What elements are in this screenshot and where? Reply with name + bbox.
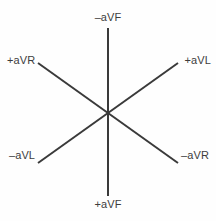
label-neg-avf: –aVF [0, 11, 216, 24]
label-neg-avl: –aVL [9, 149, 35, 162]
label-pos-avl: +aVL [185, 54, 211, 67]
label-neg-avr: –aVR [181, 149, 209, 162]
label-pos-avf: +aVF [0, 198, 216, 211]
hexaxial-reference-diagram: –aVF +aVR +aVL –aVL –aVR +aVF [0, 0, 216, 221]
axes-group [0, 0, 216, 221]
label-pos-avr: +aVR [7, 54, 35, 67]
